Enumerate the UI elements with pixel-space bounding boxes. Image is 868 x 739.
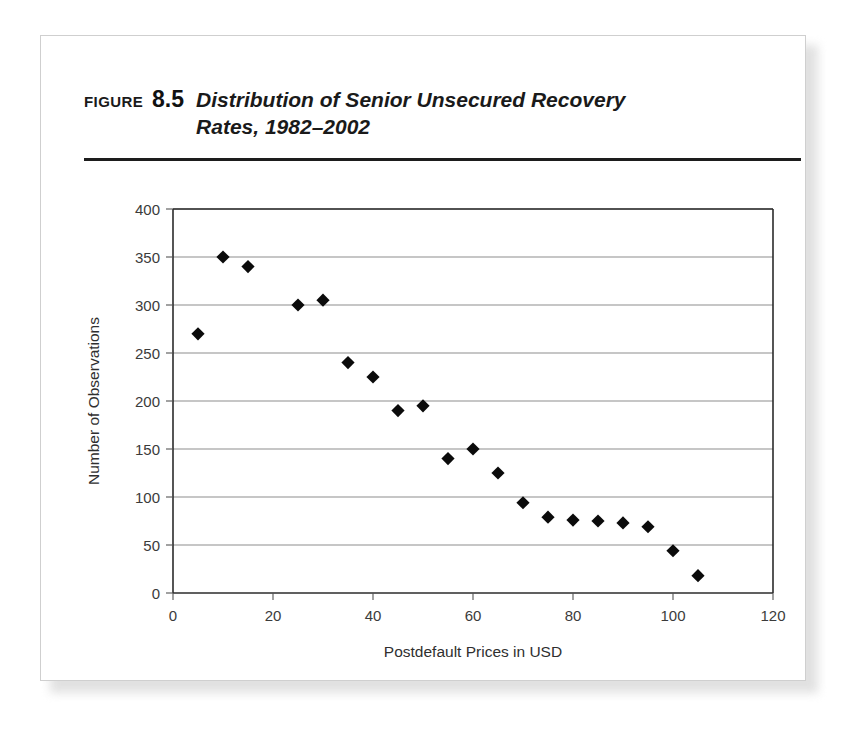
- y-tick-label: 0: [152, 585, 160, 602]
- data-point-marker: [191, 327, 204, 340]
- data-point-marker: [591, 514, 604, 527]
- data-point-marker: [516, 496, 529, 509]
- chart-container: 050100150200250300350400020406080100120P…: [41, 36, 807, 682]
- data-point-marker: [491, 466, 504, 479]
- scatter-chart: 050100150200250300350400020406080100120P…: [41, 36, 807, 682]
- data-point-marker: [441, 452, 454, 465]
- page-root: FIGURE 8.5 Distribution of Senior Unsecu…: [0, 0, 868, 739]
- data-point-marker: [366, 370, 379, 383]
- y-tick-label: 300: [135, 297, 160, 314]
- y-tick-label: 50: [143, 537, 160, 554]
- data-point-marker: [391, 404, 404, 417]
- x-tick-label: 60: [465, 607, 482, 624]
- data-point-marker: [291, 298, 304, 311]
- data-point-marker: [641, 520, 654, 533]
- x-tick-label: 0: [169, 607, 177, 624]
- y-tick-label: 100: [135, 489, 160, 506]
- y-tick-label: 350: [135, 249, 160, 266]
- figure-card: FIGURE 8.5 Distribution of Senior Unsecu…: [40, 35, 806, 681]
- data-point-marker: [541, 511, 554, 524]
- data-point-marker: [691, 569, 704, 582]
- y-axis-title: Number of Observations: [85, 317, 102, 485]
- data-point-marker: [241, 260, 254, 273]
- x-tick-label: 40: [365, 607, 382, 624]
- y-tick-label: 200: [135, 393, 160, 410]
- data-point-marker: [666, 544, 679, 557]
- x-tick-label: 20: [265, 607, 282, 624]
- x-tick-label: 120: [760, 607, 785, 624]
- x-tick-label: 100: [660, 607, 685, 624]
- y-tick-label: 150: [135, 441, 160, 458]
- x-axis-title: Postdefault Prices in USD: [384, 643, 562, 660]
- x-tick-label: 80: [565, 607, 582, 624]
- data-point-marker: [341, 356, 354, 369]
- data-point-marker: [466, 442, 479, 455]
- data-point-marker: [616, 516, 629, 529]
- data-point-marker: [566, 513, 579, 526]
- data-point-marker: [216, 250, 229, 263]
- y-tick-label: 400: [135, 201, 160, 218]
- y-tick-label: 250: [135, 345, 160, 362]
